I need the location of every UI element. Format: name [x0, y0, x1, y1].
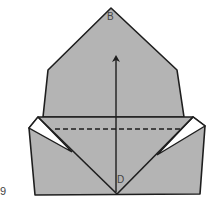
- upper-flap: [43, 8, 184, 117]
- step-number: 9: [0, 185, 6, 197]
- origami-diagram: B D 9: [0, 0, 223, 222]
- label-d: D: [117, 174, 124, 185]
- fold-illustration: [0, 0, 223, 222]
- label-b: B: [107, 11, 114, 22]
